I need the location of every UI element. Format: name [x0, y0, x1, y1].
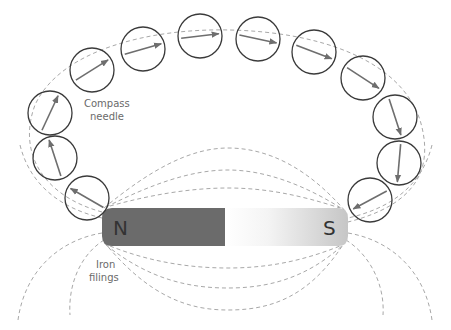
diagram-canvas: N S Compass needle Iron filings: [0, 0, 451, 330]
compass: [121, 27, 165, 71]
field-line-bottom-3: [104, 240, 346, 310]
field-line-bottom-1: [110, 246, 340, 268]
field-line-outer-arc: [29, 30, 424, 222]
compass: [292, 30, 336, 74]
compass-needles: [28, 14, 421, 222]
field-lines: [18, 30, 432, 320]
compass: [178, 14, 222, 58]
compass: [236, 17, 280, 61]
compass-label-line1: Compass: [84, 98, 130, 109]
compass: [70, 48, 114, 92]
compass-needle-arrow-icon: [347, 68, 379, 89]
field-line-left-3: [20, 145, 102, 218]
compass: [373, 95, 417, 139]
compass: [33, 136, 77, 180]
south-pole-label: S: [323, 216, 336, 240]
field-line-top-3: [110, 188, 340, 208]
iron-filings-label-line1: Iron: [96, 259, 115, 270]
compass-needle-arrow-icon: [296, 45, 331, 59]
bar-magnet: N S: [102, 208, 348, 246]
compass: [28, 91, 72, 135]
compass-label-line2: needle: [90, 111, 124, 122]
compass-needle-arrow-icon: [42, 96, 58, 130]
compass-needle-arrow-icon: [125, 44, 162, 54]
compass-needle-arrow-icon: [389, 99, 401, 135]
iron-filings-label-line2: filings: [89, 272, 119, 283]
field-line-right-2: [346, 240, 383, 315]
compass-needle-arrow-icon: [76, 60, 108, 80]
compass: [377, 141, 421, 185]
compass-needle-arrow-icon: [71, 189, 104, 208]
field-line-top-1: [104, 148, 346, 212]
bar-magnet-field-diagram: N S Compass needle Iron filings: [0, 0, 451, 330]
compass-needle-arrow-icon: [397, 144, 400, 182]
north-pole-label: N: [113, 216, 128, 240]
compass-needle-arrow-icon: [49, 140, 61, 176]
field-line-right-1: [348, 233, 432, 320]
compass-needle-arrow-icon: [181, 34, 219, 39]
compass-needle-arrow-icon: [239, 35, 276, 43]
field-line-bottom-2: [106, 244, 344, 288]
compass: [341, 56, 385, 100]
compass-needle-arrow-icon: [353, 191, 387, 209]
